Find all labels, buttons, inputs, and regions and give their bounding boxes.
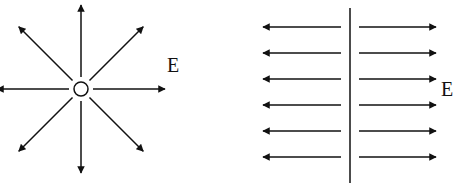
field-diagrams: E E [0, 0, 454, 186]
point-charge [74, 82, 88, 96]
point-charge-field [0, 5, 165, 173]
field-line-arrow [19, 97, 73, 151]
radial-field-label: E [167, 54, 179, 76]
field-line-arrow [19, 27, 73, 81]
planar-field-label: E [441, 78, 453, 100]
field-line-arrow [89, 27, 143, 81]
field-line-arrow [89, 97, 143, 151]
